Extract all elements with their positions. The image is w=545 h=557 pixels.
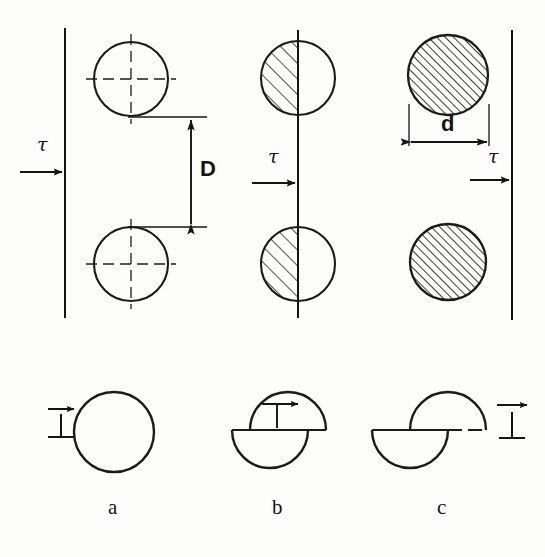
sheared-particle-b-bottom [232,430,308,468]
particle-c-bottom [410,224,486,300]
caption-a: a [108,495,117,520]
sheared-particle-c-top [410,392,486,430]
label-tau-middle: τ [268,145,279,167]
caption-c: c [437,495,446,520]
label-dimension-D: D [200,156,216,182]
diagram-canvas [0,0,545,557]
sheared-particle-b-top [250,392,326,430]
figure-root: τ D τ d τ a b c [0,0,545,557]
label-tau-right: τ [488,145,499,167]
label-dimension-d: d [441,111,454,137]
label-tau-left: τ [37,133,48,155]
sheared-particle-c-bottom [372,430,448,468]
sheared-particle-a [74,392,154,472]
caption-b: b [272,495,283,520]
particle-c-top [408,35,488,115]
